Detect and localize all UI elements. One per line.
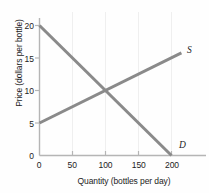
chart-plot-area xyxy=(0,0,209,193)
supply-demand-chart: Price (dollars per bottle) Quantity (bot… xyxy=(0,0,209,193)
supply-curve xyxy=(40,53,182,123)
